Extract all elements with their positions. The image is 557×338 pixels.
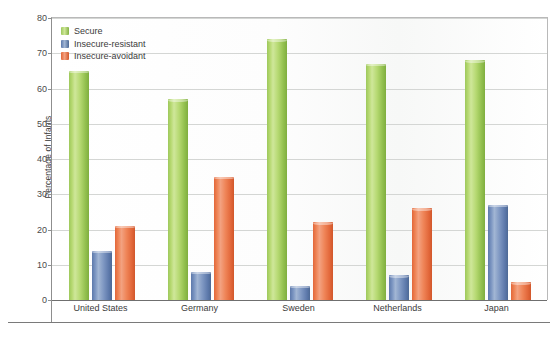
bar-group bbox=[448, 18, 547, 300]
bar-avoidant bbox=[214, 177, 234, 300]
x-tick-label: United States bbox=[73, 303, 127, 313]
y-tick-label-50: 50 bbox=[37, 119, 47, 129]
bar-avoidant bbox=[313, 222, 333, 300]
x-tick-label: Germany bbox=[181, 303, 218, 313]
y-axis-lower-segment bbox=[51, 300, 52, 322]
x-tick-label: Japan bbox=[484, 303, 509, 313]
bar-secure bbox=[267, 39, 287, 300]
bar-resistant bbox=[488, 205, 508, 300]
legend-swatch-icon bbox=[61, 40, 69, 48]
y-tick-label-0: 0 bbox=[42, 295, 47, 305]
bar-chart-figure: Percentage of Infants 01020304050607080 … bbox=[0, 0, 557, 338]
legend-item: Insecure-avoidant bbox=[61, 51, 146, 61]
bar-resistant bbox=[389, 275, 409, 300]
bar-secure bbox=[69, 71, 89, 300]
legend-swatch-icon bbox=[61, 27, 69, 35]
y-tick-label-10: 10 bbox=[37, 260, 47, 270]
bar-group bbox=[151, 18, 250, 300]
bar-avoidant bbox=[412, 208, 432, 300]
legend-item: Insecure-resistant bbox=[61, 39, 146, 49]
y-tick-label-60: 60 bbox=[37, 84, 47, 94]
bar-secure bbox=[168, 99, 188, 300]
gridline-0: 0 bbox=[52, 300, 547, 301]
bar-group bbox=[250, 18, 349, 300]
x-axis-tick-labels: United StatesGermanySwedenNetherlandsJap… bbox=[51, 303, 548, 319]
legend-item: Secure bbox=[61, 26, 146, 36]
y-tick-label-20: 20 bbox=[37, 225, 47, 235]
bar-secure bbox=[366, 64, 386, 300]
y-tick-label-30: 30 bbox=[37, 189, 47, 199]
legend-swatch-icon bbox=[61, 52, 69, 60]
legend-label: Secure bbox=[74, 26, 103, 36]
bar-secure bbox=[465, 60, 485, 300]
bar-avoidant bbox=[115, 226, 135, 300]
bar-group bbox=[349, 18, 448, 300]
y-tick-label-80: 80 bbox=[37, 13, 47, 23]
x-tick-label: Netherlands bbox=[373, 303, 422, 313]
y-tick-label-70: 70 bbox=[37, 48, 47, 58]
y-tick-label-40: 40 bbox=[37, 154, 47, 164]
bar-resistant bbox=[290, 286, 310, 300]
chart-legend: SecureInsecure-resistantInsecure-avoidan… bbox=[61, 26, 146, 61]
x-tick-label: Sweden bbox=[282, 303, 315, 313]
bar-resistant bbox=[191, 272, 211, 300]
legend-label: Insecure-avoidant bbox=[74, 51, 146, 61]
x-axis-rule bbox=[8, 322, 550, 323]
bar-avoidant bbox=[511, 282, 531, 300]
bar-resistant bbox=[92, 251, 112, 300]
legend-label: Insecure-resistant bbox=[74, 39, 146, 49]
